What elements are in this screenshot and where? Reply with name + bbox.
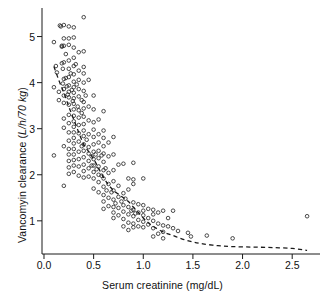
scatter-point xyxy=(87,145,91,149)
scatter-point xyxy=(92,108,96,112)
scatter-point xyxy=(77,69,81,73)
scatter-point xyxy=(102,109,106,113)
scatter-point xyxy=(146,216,150,220)
scatter-point xyxy=(112,198,116,202)
x-axis-tick-label: 0.0 xyxy=(37,259,52,271)
scatter-point xyxy=(61,82,65,86)
scatter-point xyxy=(82,149,86,153)
scatter-point xyxy=(76,105,80,109)
scatter-point xyxy=(107,155,111,159)
scatter-point xyxy=(176,229,180,233)
scatter-point xyxy=(166,216,170,220)
scatter-point xyxy=(102,200,106,204)
scatter-point xyxy=(67,59,71,63)
scatter-point xyxy=(102,185,106,189)
scatter-point xyxy=(72,80,76,84)
scatter-point xyxy=(52,154,56,158)
scatter-point xyxy=(82,176,86,180)
scatter-point xyxy=(67,172,71,176)
scatter-point xyxy=(77,174,81,178)
scatter-point xyxy=(156,232,160,236)
scatter-point xyxy=(122,191,126,195)
scatter-point xyxy=(102,193,106,197)
scatter-point xyxy=(132,178,136,182)
scatter-point xyxy=(102,129,106,133)
scatter-point xyxy=(97,132,101,136)
scatter-point xyxy=(57,90,61,94)
scatter-point xyxy=(77,116,81,120)
scatter-point xyxy=(151,219,155,223)
scatter-point xyxy=(161,209,165,213)
scatter-point xyxy=(92,143,96,147)
scatter-point xyxy=(122,210,126,214)
scatter-point xyxy=(80,111,84,115)
scatter-point xyxy=(82,169,86,173)
scatter-markers xyxy=(52,15,309,240)
scatter-point xyxy=(122,217,126,221)
scatter-point xyxy=(82,134,86,138)
scatter-point xyxy=(141,225,145,229)
scatter-point xyxy=(72,170,76,174)
plot-canvas xyxy=(0,0,325,301)
scatter-point xyxy=(92,135,96,139)
scatter-point xyxy=(67,159,71,163)
y-axis-ticks xyxy=(37,37,42,221)
scatter-point xyxy=(92,94,96,98)
scatter-point xyxy=(62,126,66,130)
scatter-point xyxy=(72,36,76,40)
scatter-point xyxy=(52,85,56,89)
scatter-point xyxy=(77,108,81,112)
scatter-point xyxy=(132,201,136,205)
x-axis-tick-label: 2.0 xyxy=(235,259,250,271)
scatter-point xyxy=(127,213,131,217)
scatter-point xyxy=(72,164,76,168)
x-axis-title: Serum creatinine (mg/dL) xyxy=(0,279,325,291)
scatter-point xyxy=(62,184,66,188)
scatter-point xyxy=(62,144,66,148)
scatter-point xyxy=(156,222,160,226)
scatter-point xyxy=(57,98,61,102)
scatter-point xyxy=(102,160,106,164)
scatter-point xyxy=(141,214,145,218)
scatter-point xyxy=(72,108,76,112)
scatter-point xyxy=(102,136,106,140)
scatter-point xyxy=(107,171,111,175)
scatter-point xyxy=(85,138,89,142)
scatter-point xyxy=(82,115,86,119)
scatter-point xyxy=(171,226,175,230)
scatter-point xyxy=(112,153,116,157)
scatter-point xyxy=(102,207,106,211)
scatter-point xyxy=(77,140,81,144)
scatter-point xyxy=(122,203,126,207)
scatter-point xyxy=(151,208,155,212)
scatter-point xyxy=(132,161,136,165)
scatter-point xyxy=(97,180,101,184)
scatter-point xyxy=(114,202,118,206)
scatter-point xyxy=(87,78,91,82)
scatter-point xyxy=(132,222,136,226)
scatter-point xyxy=(72,26,76,30)
scatter-point xyxy=(62,101,66,105)
scatter-point xyxy=(112,179,116,183)
scatter-point xyxy=(97,141,101,145)
scatter-point xyxy=(67,139,71,143)
scatter-point xyxy=(82,89,86,93)
scatter-point xyxy=(97,118,101,122)
scatter-point xyxy=(141,220,145,224)
scatter-point xyxy=(77,123,81,127)
scatter-point xyxy=(146,207,150,211)
scatter-point xyxy=(132,182,136,186)
scatter-point xyxy=(52,40,56,44)
scatter-point xyxy=(82,72,86,76)
x-axis-tick-label: 1.0 xyxy=(136,259,151,271)
scatter-point xyxy=(82,15,86,19)
scatter-point xyxy=(82,107,86,111)
y-axis-title-units: L/h/70 kg xyxy=(16,91,28,135)
scatter-point xyxy=(67,147,71,151)
scatter-point xyxy=(72,125,76,129)
scatter-point xyxy=(127,188,131,192)
scatter-point xyxy=(72,56,76,60)
scatter-point xyxy=(77,165,81,169)
scatter-point xyxy=(117,184,121,188)
scatter-point xyxy=(137,225,141,229)
